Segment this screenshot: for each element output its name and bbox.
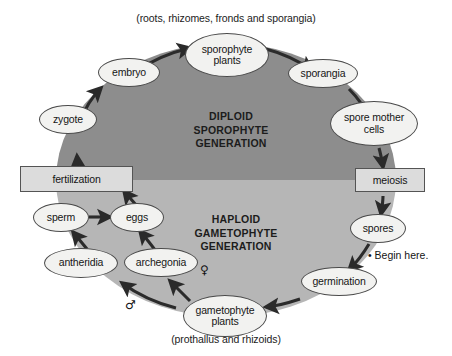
node-eggs[interactable]: eggs	[110, 203, 164, 232]
node-zygote[interactable]: zygote	[39, 105, 97, 134]
node-sperm[interactable]: sperm	[33, 203, 89, 232]
node-germination[interactable]: germination	[301, 267, 377, 296]
haploid-line-2: GAMETOPHYTE	[166, 227, 306, 241]
box-fertilization[interactable]: fertilization	[20, 166, 133, 192]
node-sporangia-label: sporangia	[301, 68, 346, 80]
node-gametophyte-plants-line2: plants	[195, 316, 254, 328]
node-embryo-label: embryo	[112, 67, 146, 79]
box-meiosis[interactable]: meiosis	[355, 168, 425, 192]
node-gametophyte-plants[interactable]: gametophyte plants	[183, 295, 267, 337]
diploid-generation-label: DIPLOID SPOROPHYTE GENERATION	[166, 110, 296, 151]
node-embryo[interactable]: embryo	[98, 58, 160, 87]
node-archegonia-label: archegonia	[136, 257, 186, 269]
node-spores[interactable]: spores	[350, 214, 406, 243]
begin-here-marker: • Begin here.	[368, 249, 428, 261]
diploid-line-2: SPOROPHYTE	[166, 124, 296, 138]
node-spore-mother-cells-line1: spore mother	[344, 112, 404, 124]
diploid-line-3: GENERATION	[166, 137, 296, 151]
haploid-line-1: HAPLOID	[166, 213, 306, 227]
node-sporangia[interactable]: sporangia	[288, 59, 358, 88]
node-sporophyte-plants-line2: plants	[202, 55, 252, 67]
male-symbol-icon: ♂	[125, 299, 136, 311]
node-spore-mother-cells[interactable]: spore mother cells	[330, 101, 418, 146]
node-antheridia-label: antheridia	[59, 257, 104, 269]
node-sperm-label: sperm	[47, 212, 75, 224]
box-meiosis-label: meiosis	[373, 174, 408, 186]
node-archegonia[interactable]: archegonia	[124, 248, 198, 277]
node-spore-mother-cells-line2: cells	[344, 124, 404, 136]
node-zygote-label: zygote	[53, 114, 83, 126]
node-spores-label: spores	[363, 223, 394, 235]
top-caption: (roots, rhizomes, fronds and sporangia)	[0, 12, 452, 24]
box-fertilization-label: fertilization	[52, 173, 100, 185]
node-germination-label: germination	[312, 276, 365, 288]
node-sporophyte-plants[interactable]: sporophyte plants	[185, 33, 269, 77]
female-symbol-icon: ♀	[200, 264, 209, 276]
diploid-line-1: DIPLOID	[166, 110, 296, 124]
node-antheridia[interactable]: antheridia	[44, 248, 118, 278]
node-eggs-label: eggs	[126, 212, 148, 224]
fern-life-cycle-diagram: (roots, rhizomes, fronds and sporangia) …	[0, 0, 452, 356]
haploid-generation-label: HAPLOID GAMETOPHYTE GENERATION	[166, 213, 306, 254]
